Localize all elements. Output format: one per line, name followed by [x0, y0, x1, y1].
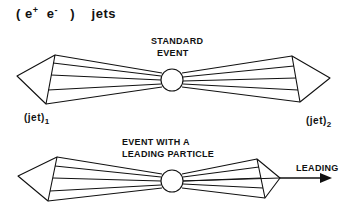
standard-event-jet2-cone [182, 56, 330, 102]
leading-particle-arrowhead-icon [320, 173, 332, 183]
leading-event-vertex-circle [161, 170, 183, 192]
leading-event-jet2-cone [182, 159, 280, 198]
jets-diagram-graphic [0, 0, 355, 202]
standard-event-vertex-circle [161, 69, 183, 91]
leading-event-jet1-cone [18, 157, 162, 201]
standard-event-jet1-cone [17, 55, 162, 104]
